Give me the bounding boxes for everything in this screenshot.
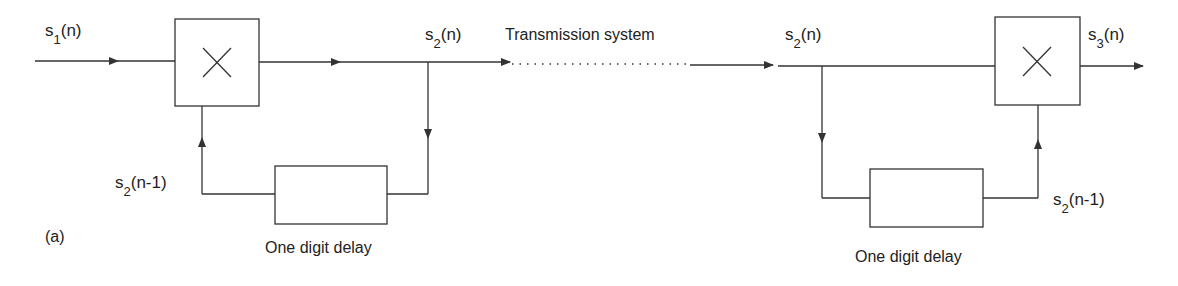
rx-output-label: s3(n) (1088, 25, 1125, 51)
delay-block-rx (870, 169, 983, 227)
channel-label: Transmission system (505, 26, 655, 43)
rx-input-label: s2(n) (785, 25, 822, 51)
block-diagram: s1(n) s2(n) s2(n-1) (a) One digit delay … (0, 0, 1178, 286)
tx-feedback-label: s2(n-1) (115, 173, 167, 199)
rx-feedback-label: s2(n-1) (1053, 190, 1105, 216)
tx-output-label: s2(n) (425, 25, 462, 51)
tx-delay-caption: One digit delay (265, 239, 372, 256)
rx-delay-caption: One digit delay (855, 248, 962, 265)
tx-input-label: s1(n) (45, 21, 82, 47)
delay-block-tx (275, 166, 387, 224)
panel-label: (a) (45, 228, 65, 245)
